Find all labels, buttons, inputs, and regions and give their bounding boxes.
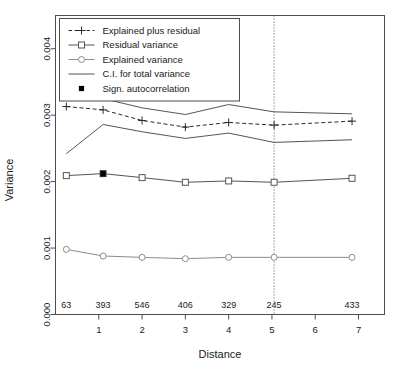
class-count-label: 406 [178,300,193,310]
marker-circle-open [63,246,69,252]
marker-circle-open [139,254,145,260]
marker-square-open [63,173,69,179]
legend-entry-label: Sign. autocorrelation [103,83,190,94]
marker-circle-open [349,254,355,260]
marker-circle-open [100,253,106,259]
marker-circle-open [226,254,232,260]
legend-filled-square-icon [79,86,84,91]
y-tick-label: 0.001 [41,236,52,260]
legend-entry-label: Residual variance [103,39,179,50]
x-tick-label: 6 [313,324,318,335]
legend-circle-open-icon [79,57,85,63]
x-axis-title: Distance [199,348,242,360]
y-tick-label: 0.004 [41,37,52,61]
marker-square-open [271,179,277,185]
x-tick-label: 7 [356,324,361,335]
chart-canvas: 0.0000.0010.0020.0030.004 1234567 633935… [0,0,401,369]
chart-legend: Explained plus residualResidual variance… [60,19,240,102]
marker-square-open [139,175,145,181]
class-count-label: 433 [345,300,360,310]
y-tick-label: 0.003 [41,103,52,127]
variance-distance-chart: 0.0000.0010.0020.0030.004 1234567 633935… [0,0,401,369]
y-tick-label: 0.002 [41,170,52,194]
x-tick-label: 1 [96,324,101,335]
legend-entry-label: Explained plus residual [103,25,201,36]
x-tick-label: 3 [183,324,188,335]
marker-square-open [349,175,355,181]
x-tick-label: 5 [269,324,274,335]
legend-entry-label: Explained variance [103,54,183,65]
marker-circle-open [271,254,277,260]
marker-circle-open [182,256,188,262]
x-tick-label: 4 [226,324,231,335]
y-tick-label: 0.000 [41,303,52,327]
class-count-label: 329 [221,300,236,310]
class-count-label: 63 [61,300,71,310]
marker-significant-autocorrelation [101,171,106,176]
marker-square-open [226,178,232,184]
marker-square-open [182,179,188,185]
y-axis-title: Variance [3,159,15,202]
class-count-label: 546 [135,300,150,310]
x-tick-label: 2 [139,324,144,335]
legend-entry-label: C.I. for total variance [103,68,191,79]
legend-square-open-icon [79,42,85,48]
class-count-label: 393 [96,300,111,310]
